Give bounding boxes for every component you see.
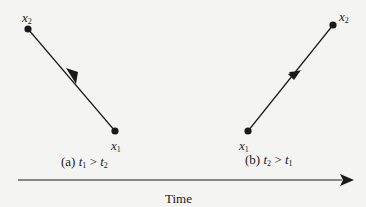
diagram-canvas [0,0,366,207]
panel-a-point-x1 [111,127,118,134]
time-axis [18,174,354,186]
panel-a-point-x2 [24,25,31,32]
diagram-figure: x2 x1 (a) t1 > t2 x2 x1 (b) t2 > t1 Time [0,0,366,207]
panel-a-label-x2: x2 [22,11,32,26]
panel-b-point-x2 [329,21,336,28]
panel-a-line [28,29,115,131]
time-axis-arrow-icon [340,174,354,186]
panel-a-worldline [24,25,118,134]
panel-b-caption: (b) t2 > t1 [245,153,293,168]
panel-b-label-x2: x2 [339,10,349,25]
panel-a-caption: (a) t1 > t2 [61,155,108,170]
panel-b-worldline [244,21,336,134]
panel-a-label-x1: x1 [111,139,121,154]
panel-b-point-x1 [244,127,251,134]
panel-b-line [248,25,333,131]
time-axis-label: Time [165,192,192,205]
